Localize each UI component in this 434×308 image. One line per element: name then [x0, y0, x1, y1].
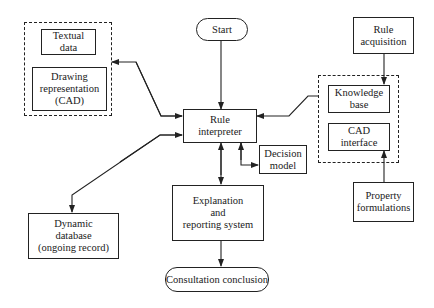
knowledge-base-label: Knowledge base	[335, 87, 383, 111]
arrow-interpreter-to-left-group	[112, 62, 182, 116]
arrow-interpreter-to-database	[72, 135, 182, 212]
dynamic-database-label: Dynamic database (ongoing record)	[38, 218, 109, 254]
arrow-knowledge-to-interpreter	[257, 96, 318, 116]
textual-data-label: Textual data	[53, 30, 84, 54]
start-terminal: Start	[196, 18, 248, 41]
property-formulations-label: Property formulations	[357, 190, 411, 214]
drawing-representation-box: Drawing representation (CAD)	[32, 67, 107, 111]
property-formulations-box: Property formulations	[353, 182, 414, 222]
rule-interpreter-label: Rule interpreter	[198, 114, 242, 138]
explanation-label: Explanation and reporting system	[183, 195, 253, 231]
drawing-representation-label: Drawing representation (CAD)	[40, 71, 99, 107]
cad-interface-box: CAD interface	[328, 123, 390, 151]
dynamic-database-box: Dynamic database (ongoing record)	[28, 213, 119, 259]
rule-acquisition-box: Rule acquisition	[353, 17, 414, 54]
start-label: Start	[212, 24, 232, 36]
consultation-conclusion-label: Consultation conclusion	[166, 274, 268, 286]
decision-model-box: Decision model	[259, 145, 307, 174]
cad-interface-label: CAD interface	[341, 125, 378, 149]
rule-acquisition-label: Rule acquisition	[360, 24, 406, 48]
explanation-box: Explanation and reporting system	[172, 185, 264, 241]
arrow-interpreter-to-decision	[241, 143, 258, 165]
knowledge-base-box: Knowledge base	[328, 85, 390, 113]
rule-interpreter-box: Rule interpreter	[183, 109, 257, 143]
consultation-conclusion-terminal: Consultation conclusion	[165, 267, 269, 292]
textual-data-box: Textual data	[41, 29, 96, 55]
decision-model-label: Decision model	[264, 148, 301, 172]
